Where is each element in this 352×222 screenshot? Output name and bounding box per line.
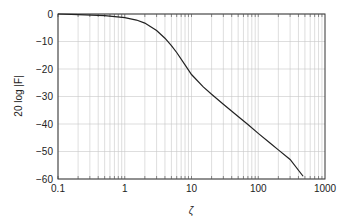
x-axis-label: ζ — [189, 205, 195, 217]
y-tick-label: −30 — [36, 91, 53, 102]
x-tick-label: 1000 — [314, 183, 337, 194]
y-axis-label: 20 log |F| — [13, 75, 24, 116]
x-tick-label: 100 — [250, 183, 267, 194]
grid-lines — [58, 14, 325, 179]
y-axis-ticks: 0−10−20−30−40−50−60 — [36, 9, 53, 185]
x-axis-ticks: 0.11101001000 — [51, 183, 337, 194]
bode-magnitude-chart: 0−10−20−30−40−50−60 0.11101001000 ζ 20 l… — [0, 0, 352, 222]
x-tick-label: 1 — [122, 183, 128, 194]
x-tick-label: 10 — [186, 183, 198, 194]
y-tick-label: −20 — [36, 64, 53, 75]
magnitude-curve — [58, 14, 303, 176]
y-tick-label: −40 — [36, 119, 53, 130]
y-tick-label: −10 — [36, 36, 53, 47]
y-tick-label: −50 — [36, 146, 53, 157]
y-tick-label: 0 — [47, 9, 53, 20]
x-tick-label: 0.1 — [51, 183, 65, 194]
